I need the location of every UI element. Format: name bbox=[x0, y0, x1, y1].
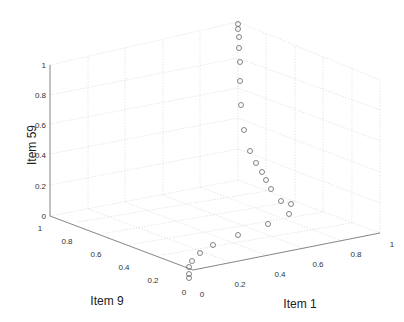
data-point bbox=[190, 259, 195, 264]
data-point bbox=[254, 161, 259, 166]
svg-text:0.2: 0.2 bbox=[234, 280, 246, 289]
z-axis-label: Item 59 bbox=[25, 125, 39, 165]
svg-text:0: 0 bbox=[182, 288, 187, 297]
svg-text:0.8: 0.8 bbox=[61, 237, 73, 246]
data-point bbox=[269, 187, 274, 192]
data-point bbox=[260, 170, 265, 175]
data-point bbox=[287, 212, 292, 217]
svg-text:0.8: 0.8 bbox=[350, 250, 362, 259]
data-point bbox=[239, 103, 244, 108]
data-point bbox=[279, 199, 284, 204]
svg-text:0.6: 0.6 bbox=[90, 250, 102, 259]
data-point bbox=[237, 46, 242, 51]
svg-text:1: 1 bbox=[38, 224, 43, 233]
x-axis-label: Item 1 bbox=[283, 297, 317, 311]
svg-text:1: 1 bbox=[42, 61, 47, 70]
svg-text:0: 0 bbox=[200, 290, 205, 299]
data-point bbox=[236, 233, 241, 238]
data-point bbox=[237, 35, 242, 40]
svg-text:0.6: 0.6 bbox=[312, 260, 324, 269]
y-axis-ticks: 0 0.2 0.4 0.6 0.8 1 bbox=[38, 224, 187, 297]
x-axis-ticks: 0 0.2 0.4 0.6 0.8 1 bbox=[200, 240, 395, 299]
svg-text:0: 0 bbox=[42, 212, 47, 221]
grid-lines bbox=[50, 22, 380, 262]
data-point bbox=[266, 222, 271, 227]
svg-text:0.2: 0.2 bbox=[147, 276, 159, 285]
svg-text:0.4: 0.4 bbox=[118, 263, 130, 272]
data-point bbox=[198, 251, 203, 256]
scatter-3d-chart: 0 0.2 0.4 0.6 0.8 1 0 0.2 0.4 0.6 0.8 1 … bbox=[0, 0, 404, 322]
svg-text:0.8: 0.8 bbox=[35, 91, 47, 100]
svg-text:0.2: 0.2 bbox=[35, 182, 47, 191]
data-point bbox=[289, 202, 294, 207]
axes-lines bbox=[50, 65, 380, 270]
y-axis-label: Item 9 bbox=[90, 294, 124, 308]
svg-text:1: 1 bbox=[390, 240, 395, 249]
svg-text:0.4: 0.4 bbox=[274, 270, 286, 279]
data-point bbox=[242, 128, 247, 133]
data-point bbox=[248, 149, 253, 154]
